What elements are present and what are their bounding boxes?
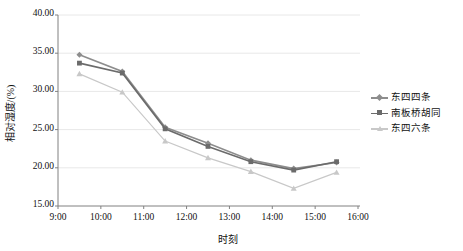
legend-item[interactable]: 南板桥胡同 (371, 106, 441, 122)
y-tick-label: 15.00 (12, 200, 54, 209)
x-tick-label: 13:00 (209, 212, 249, 222)
legend-marker-triangle-icon (377, 126, 383, 131)
data-point (76, 52, 82, 58)
legend-item[interactable]: 东四四条 (371, 90, 441, 106)
legend-marker-square-icon (377, 110, 382, 115)
data-point (291, 168, 296, 173)
legend-swatch-square-icon (371, 109, 388, 118)
y-tick-label: 40.00 (12, 9, 54, 18)
legend-label: 南板桥胡同 (391, 106, 441, 122)
humidity-line-chart: 相对湿度/(%) 时刻 15.0020.0025.0030.0035.0040.… (0, 0, 463, 251)
legend-swatch-diamond-icon (371, 93, 388, 102)
data-point (206, 144, 211, 149)
legend-marker-diamond-icon (376, 94, 383, 101)
y-tick-label: 35.00 (12, 47, 54, 56)
y-tick-label: 30.00 (12, 85, 54, 94)
legend-label: 东四四条 (391, 90, 431, 106)
data-point (76, 71, 82, 76)
series-line-1 (79, 63, 336, 170)
x-tick-label: 14:00 (252, 212, 292, 222)
legend: 东四四条南板桥胡同东四六条 (371, 90, 441, 137)
data-point (120, 71, 125, 76)
legend-item[interactable]: 东四六条 (371, 121, 441, 137)
legend-swatch-triangle-icon (371, 124, 388, 133)
data-point (77, 61, 82, 66)
y-tick-label: 25.00 (12, 124, 54, 133)
data-point (163, 126, 168, 131)
x-tick-label: 11:00 (124, 212, 164, 222)
data-point (248, 159, 253, 164)
x-tick-label: 9:00 (38, 212, 78, 222)
legend-label: 东四六条 (391, 121, 431, 137)
x-tick-label: 16:00 (338, 212, 378, 222)
y-tick-label: 20.00 (12, 162, 54, 171)
x-tick-label: 12:00 (167, 212, 207, 222)
data-point (334, 159, 339, 164)
x-tick-label: 10:00 (81, 212, 121, 222)
data-point (334, 169, 340, 174)
x-tick-label: 15:00 (295, 212, 335, 222)
